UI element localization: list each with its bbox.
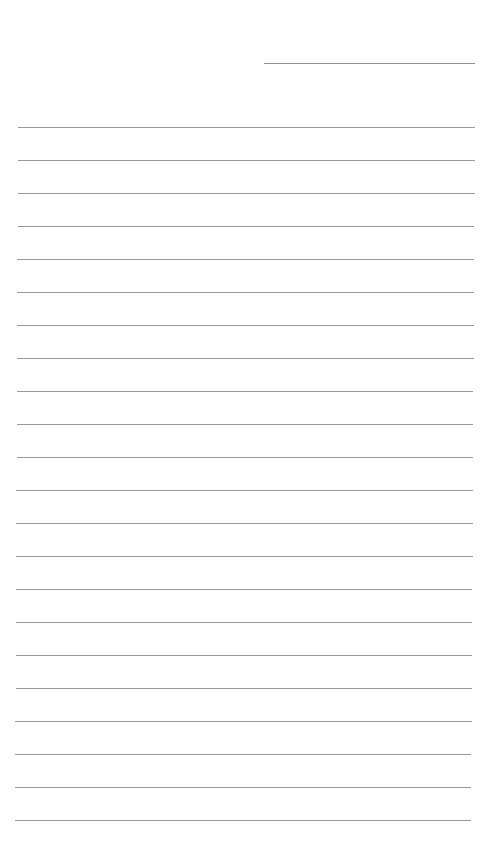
ruled-line — [16, 622, 472, 623]
ruled-line — [17, 391, 474, 392]
header-blank-line — [264, 63, 475, 64]
ruled-line — [15, 787, 471, 788]
ruled-line — [15, 754, 471, 755]
ruled-line — [16, 490, 472, 491]
ruled-line — [17, 259, 474, 260]
lined-paper-page — [0, 0, 490, 859]
ruled-line — [16, 655, 472, 656]
ruled-line — [18, 226, 475, 227]
ruled-line — [17, 424, 474, 425]
ruled-line — [16, 523, 472, 524]
ruled-line — [17, 457, 474, 458]
ruled-line — [16, 556, 472, 557]
ruled-line — [17, 358, 474, 359]
ruled-line — [17, 325, 474, 326]
ruled-line — [18, 193, 475, 194]
ruled-line — [17, 292, 474, 293]
ruled-line — [16, 688, 472, 689]
ruled-line — [18, 160, 475, 161]
ruled-line — [15, 721, 471, 722]
ruled-line — [18, 127, 475, 128]
ruled-line — [16, 589, 472, 590]
ruled-line — [15, 820, 471, 821]
